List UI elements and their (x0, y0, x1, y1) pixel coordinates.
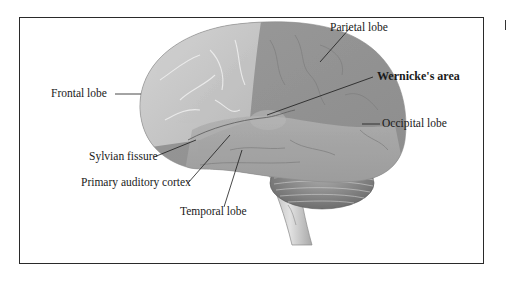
label-temporal-lobe: Temporal lobe (180, 206, 247, 218)
label-primary-auditory-cortex: Primary auditory cortex (81, 177, 191, 189)
label-wernickes-area: Wernicke's area (377, 70, 460, 82)
label-occipital-lobe: Occipital lobe (382, 118, 447, 130)
label-sylvian-fissure: Sylvian fissure (89, 151, 158, 163)
cerebrum (130, 15, 420, 200)
brain-illustration (0, 0, 506, 281)
label-frontal-lobe: Frontal lobe (51, 88, 107, 100)
label-parietal-lobe: Parietal lobe (330, 22, 388, 34)
